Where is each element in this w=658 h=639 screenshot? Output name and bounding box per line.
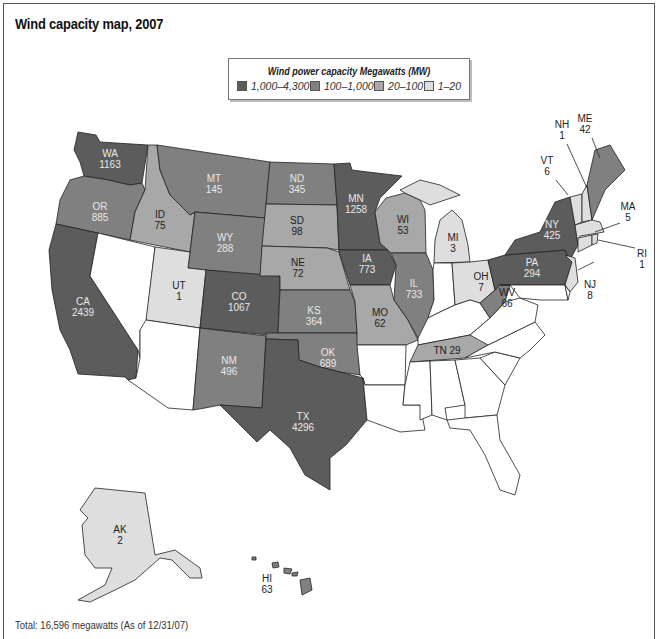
hi-island-1 bbox=[272, 562, 279, 568]
svg-text:KS364: KS364 bbox=[306, 305, 323, 327]
state-ME[interactable] bbox=[587, 145, 625, 220]
svg-text:TN 29: TN 29 bbox=[433, 345, 461, 356]
svg-text:NM496: NM496 bbox=[221, 355, 238, 377]
svg-text:OK689: OK689 bbox=[320, 347, 337, 369]
svg-text:OR885: OR885 bbox=[92, 201, 109, 223]
svg-text:NH1: NH1 bbox=[555, 119, 569, 141]
svg-text:MA5: MA5 bbox=[621, 201, 636, 223]
hi-island-3 bbox=[292, 572, 298, 576]
svg-text:NE72: NE72 bbox=[291, 257, 305, 279]
svg-text:WI53: WI53 bbox=[397, 214, 409, 236]
svg-text:MT145: MT145 bbox=[206, 173, 223, 195]
svg-text:NJ8: NJ8 bbox=[584, 279, 596, 301]
leader-VT bbox=[556, 180, 568, 195]
leader-NH bbox=[567, 144, 587, 188]
leader-NJ bbox=[578, 262, 594, 270]
hi-island-2 bbox=[284, 568, 292, 574]
state-HI[interactable] bbox=[300, 578, 312, 595]
state-CT[interactable] bbox=[578, 235, 592, 252]
svg-text:PA294: PA294 bbox=[524, 257, 541, 279]
svg-text:ID75: ID75 bbox=[154, 209, 166, 231]
state-RI[interactable] bbox=[592, 234, 598, 245]
hi-island-4 bbox=[252, 557, 256, 560]
svg-text:RI1: RI1 bbox=[637, 248, 647, 270]
svg-text:ND345: ND345 bbox=[289, 173, 306, 195]
svg-text:VT6: VT6 bbox=[541, 155, 554, 177]
svg-text:HI63: HI63 bbox=[261, 573, 273, 595]
svg-text:SD98: SD98 bbox=[290, 215, 304, 237]
leader-RI bbox=[598, 240, 635, 248]
svg-text:ME42: ME42 bbox=[578, 113, 593, 135]
svg-text:WY288: WY288 bbox=[217, 232, 234, 254]
state-AK[interactable] bbox=[78, 488, 202, 602]
total-footnote: Total: 16,596 megawatts (As of 12/31/07) bbox=[15, 620, 188, 631]
svg-text:NY425: NY425 bbox=[544, 219, 561, 241]
state-NY[interactable] bbox=[505, 197, 578, 260]
state-FL[interactable] bbox=[447, 415, 520, 495]
state-AR[interactable] bbox=[357, 345, 406, 385]
